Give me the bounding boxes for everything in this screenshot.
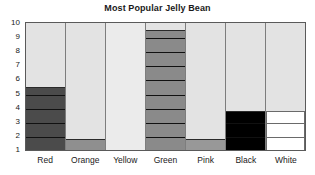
segment-divider <box>226 123 265 124</box>
y-axis-tick-5: 5 <box>16 90 20 98</box>
x-axis-label-green: Green <box>145 153 185 169</box>
segment-divider <box>146 66 185 67</box>
bar-column-white[interactable] <box>266 23 305 150</box>
bar-orange <box>66 139 105 150</box>
segment-divider <box>226 137 265 138</box>
x-axis-label-black: Black <box>226 153 266 169</box>
bar-column-orange[interactable] <box>66 23 106 150</box>
bars-container <box>26 23 305 150</box>
bar-white <box>266 111 305 151</box>
bar-column-black[interactable] <box>226 23 266 150</box>
y-axis: 10987654321 <box>0 22 23 151</box>
segment-divider <box>146 80 185 81</box>
bar-column-pink[interactable] <box>186 23 226 150</box>
y-axis-tick-1: 1 <box>16 146 20 154</box>
segment-divider <box>26 123 65 124</box>
jelly-bean-bar-chart: Most Popular Jelly Bean 10987654321 RedO… <box>0 0 315 175</box>
x-axis-label-orange: Orange <box>65 153 105 169</box>
segment-divider <box>146 109 185 110</box>
bar-green <box>146 30 185 150</box>
y-axis-tick-2: 2 <box>16 132 20 140</box>
x-axis-label-pink: Pink <box>186 153 226 169</box>
bar-segment-lines <box>66 140 105 150</box>
plot-area <box>25 22 306 151</box>
segment-divider <box>26 109 65 110</box>
bar-yellow-empty <box>106 23 145 150</box>
y-axis-tick-10: 10 <box>11 19 20 27</box>
y-axis-tick-9: 9 <box>16 33 20 41</box>
bar-segment-lines <box>186 140 225 150</box>
y-axis-tick-7: 7 <box>16 61 20 69</box>
segment-divider <box>26 137 65 138</box>
segment-divider <box>146 52 185 53</box>
segment-divider <box>146 123 185 124</box>
segment-divider <box>146 38 185 39</box>
bar-segment-lines <box>267 112 304 151</box>
bar-pink <box>186 139 225 150</box>
bar-red <box>26 87 65 151</box>
bar-column-yellow[interactable] <box>106 23 146 150</box>
segment-divider <box>267 123 304 124</box>
segment-divider <box>26 95 65 96</box>
y-axis-tick-8: 8 <box>16 47 20 55</box>
segment-divider <box>146 95 185 96</box>
y-axis-tick-4: 4 <box>16 104 20 112</box>
x-axis: RedOrangeYellowGreenPinkBlackWhite <box>25 153 306 169</box>
x-axis-label-white: White <box>266 153 306 169</box>
segment-divider <box>267 137 304 138</box>
bar-column-green[interactable] <box>146 23 186 150</box>
bar-segment-lines <box>146 31 185 150</box>
chart-title: Most Popular Jelly Bean <box>0 3 315 14</box>
x-axis-label-yellow: Yellow <box>105 153 145 169</box>
x-axis-label-red: Red <box>25 153 65 169</box>
bar-segment-lines <box>226 112 265 151</box>
y-axis-tick-3: 3 <box>16 118 20 126</box>
segment-divider <box>146 137 185 138</box>
bar-segment-lines <box>26 88 65 151</box>
bar-black <box>226 111 265 151</box>
bar-column-red[interactable] <box>26 23 66 150</box>
y-axis-tick-6: 6 <box>16 75 20 83</box>
